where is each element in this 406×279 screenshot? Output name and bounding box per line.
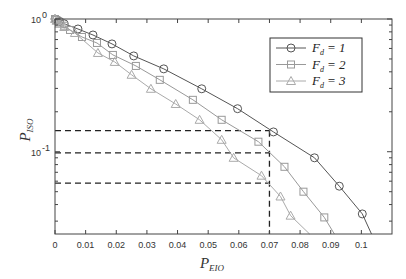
legend-label: Fd= 3: [311, 73, 346, 90]
legend: Fd= 1Fd= 2Fd= 3: [270, 38, 362, 92]
y-tick-exponent: -1: [42, 143, 50, 153]
x-tick-label: 0.04: [169, 240, 187, 250]
x-tick-label: 0.1: [355, 240, 368, 250]
x-tick-label: 0.08: [291, 240, 309, 250]
x-tick-label: 0.07: [261, 240, 279, 250]
y-tick-label: 10: [31, 15, 41, 25]
x-tick-label: 0: [52, 240, 57, 250]
y-axis-label: PISO: [17, 118, 35, 143]
x-tick-label: 0.01: [77, 240, 95, 250]
x-tick-label: 0.05: [199, 240, 217, 250]
x-tick-label: 0.09: [322, 240, 340, 250]
x-axis-label: PEIO: [199, 255, 225, 273]
y-tick-label: 10: [31, 148, 41, 158]
chart: 00.010.020.030.040.050.060.070.080.090.1…: [0, 0, 406, 279]
x-tick-label: 0.02: [108, 240, 126, 250]
x-tick-label: 0.06: [230, 240, 248, 250]
legend-label: Fd= 1: [311, 40, 345, 57]
legend-label: Fd= 2: [311, 57, 346, 74]
y-tick-exponent: 0: [42, 10, 47, 20]
x-tick-label: 0.03: [138, 240, 156, 250]
